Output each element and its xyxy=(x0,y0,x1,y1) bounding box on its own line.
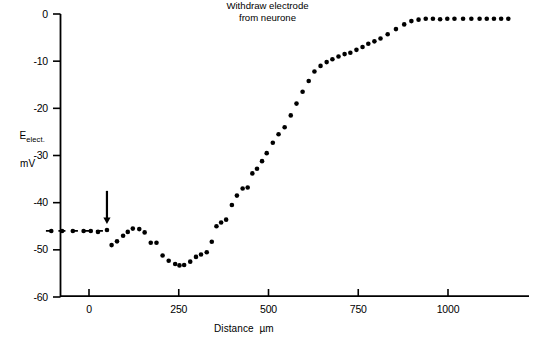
y-tick-label: -30 xyxy=(8,149,48,161)
data-point xyxy=(96,230,101,235)
data-point xyxy=(452,16,457,21)
data-point xyxy=(154,240,159,245)
y-axis-ticks xyxy=(53,14,61,297)
data-point xyxy=(336,54,341,59)
data-point xyxy=(300,90,305,95)
x-tick-label: 1000 xyxy=(418,303,478,315)
data-point-series xyxy=(49,16,511,267)
axis-lines xyxy=(60,14,529,297)
data-point xyxy=(360,45,365,50)
data-point xyxy=(148,240,153,245)
data-point xyxy=(324,60,329,65)
data-point xyxy=(372,39,377,44)
data-point xyxy=(312,69,317,74)
x-axis-title: Distance µm xyxy=(214,323,274,334)
data-point xyxy=(318,64,323,69)
y-tick-label: 0 xyxy=(8,8,48,20)
x-tick-label: 500 xyxy=(239,303,299,315)
data-point xyxy=(137,227,142,232)
data-point xyxy=(240,186,245,191)
data-point xyxy=(366,41,371,46)
data-point xyxy=(499,16,504,21)
data-point xyxy=(330,57,335,62)
data-point xyxy=(492,16,497,21)
data-point xyxy=(160,253,165,258)
data-point xyxy=(49,229,54,234)
data-point xyxy=(142,230,147,235)
data-point xyxy=(235,193,240,198)
data-point xyxy=(250,171,255,176)
data-point xyxy=(342,52,347,57)
data-point xyxy=(188,259,193,264)
data-point xyxy=(182,263,187,268)
data-point xyxy=(282,125,287,130)
data-point xyxy=(125,230,130,235)
data-point xyxy=(469,16,474,21)
data-point xyxy=(264,151,269,156)
data-point xyxy=(177,263,182,268)
x-tick-label: 0 xyxy=(59,303,119,315)
arrow-head xyxy=(103,217,110,224)
data-point xyxy=(173,262,178,267)
data-point xyxy=(431,16,436,21)
data-point xyxy=(194,255,199,260)
data-point xyxy=(209,240,214,245)
data-point xyxy=(199,252,204,257)
data-point xyxy=(88,229,93,234)
data-point xyxy=(402,22,407,27)
data-point xyxy=(276,132,281,137)
data-point xyxy=(354,48,359,53)
data-point xyxy=(105,228,110,233)
data-point xyxy=(166,258,171,263)
data-point xyxy=(71,229,76,234)
withdraw-electrode-arrow-icon xyxy=(103,191,110,224)
data-point xyxy=(477,16,482,21)
data-point xyxy=(348,50,353,55)
data-point xyxy=(81,229,86,234)
data-point xyxy=(245,185,250,190)
data-point xyxy=(130,226,135,231)
data-point xyxy=(385,32,390,37)
data-point xyxy=(121,233,126,238)
x-tick-label: 750 xyxy=(328,303,388,315)
data-point xyxy=(219,220,224,225)
data-point xyxy=(378,36,383,41)
data-point xyxy=(484,16,489,21)
y-tick-label: -60 xyxy=(8,291,48,303)
data-point xyxy=(60,229,65,234)
data-point xyxy=(255,166,260,171)
y-tick-label: -40 xyxy=(8,196,48,208)
data-point xyxy=(230,203,235,208)
data-point xyxy=(445,16,450,21)
x-tick-label: 250 xyxy=(149,303,209,315)
plot-canvas xyxy=(0,0,535,346)
data-point xyxy=(224,217,229,222)
data-point xyxy=(115,239,120,244)
y-tick-label: -20 xyxy=(8,102,48,114)
data-point xyxy=(260,159,265,164)
data-point xyxy=(214,224,219,229)
chart-figure: Eelect. mV Distance µm Withdraw electrod… xyxy=(0,0,535,346)
x-axis-ticks xyxy=(89,289,448,296)
data-point xyxy=(271,140,276,145)
data-point xyxy=(423,16,428,21)
y-axis-title-subscript: elect. xyxy=(26,135,45,144)
data-point xyxy=(409,19,414,24)
y-tick-label: -10 xyxy=(8,55,48,67)
data-point xyxy=(109,243,114,248)
data-point xyxy=(438,17,443,22)
data-point xyxy=(416,17,421,22)
data-point xyxy=(394,27,399,32)
data-point xyxy=(306,79,311,84)
data-point xyxy=(294,101,299,106)
data-point xyxy=(506,16,511,21)
data-point xyxy=(288,113,293,118)
data-point xyxy=(204,250,209,255)
y-tick-label: -50 xyxy=(8,243,48,255)
data-point xyxy=(461,16,466,21)
